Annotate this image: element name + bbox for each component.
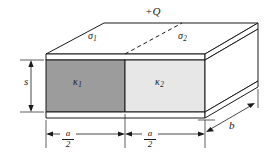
s-arrowhead-top: [28, 60, 33, 67]
a-half-right-numerator: a: [144, 129, 156, 138]
kappa-2-subscript: 2: [160, 81, 164, 89]
a-half-left-numerator: a: [62, 129, 74, 138]
sigma-1-subscript: 1: [93, 35, 97, 43]
figure-geometry: [0, 0, 266, 152]
a-half-left-arrowhead-start: [46, 131, 53, 136]
s-arrowhead-bottom: [28, 105, 33, 112]
sigma-2-subscript: 2: [183, 35, 187, 43]
bottom-plate-front-edge: [46, 112, 205, 118]
width-dimension-label-left: a 2: [62, 129, 74, 149]
dielectric-constant-1-label: κ1: [73, 77, 82, 89]
dielectric-2-front-face: [125, 60, 205, 112]
kappa-1-subscript: 1: [78, 81, 82, 89]
a-half-left-arrowhead-end: [118, 131, 125, 136]
capacitor-dielectric-figure: +Q σ1 σ2 κ1 κ2 s b a 2 a 2: [0, 0, 266, 152]
thickness-dimension-label: s: [24, 76, 28, 87]
a-half-left-denominator: 2: [62, 140, 74, 149]
top-plate-front-edge: [46, 54, 205, 60]
dielectric-constant-2-label: κ2: [155, 77, 164, 89]
surface-charge-density-1-label: σ1: [88, 31, 97, 43]
width-dimension-label-right: a 2: [144, 129, 156, 149]
charge-label: +Q: [145, 6, 160, 17]
dielectric-1-front-face: [46, 60, 125, 112]
a-half-right-denominator: 2: [144, 140, 156, 149]
depth-dimension-label: b: [229, 120, 235, 131]
a-half-right-arrowhead-end: [198, 131, 205, 136]
surface-charge-density-2-label: σ2: [178, 31, 187, 43]
a-half-right-arrowhead-start: [125, 131, 132, 136]
